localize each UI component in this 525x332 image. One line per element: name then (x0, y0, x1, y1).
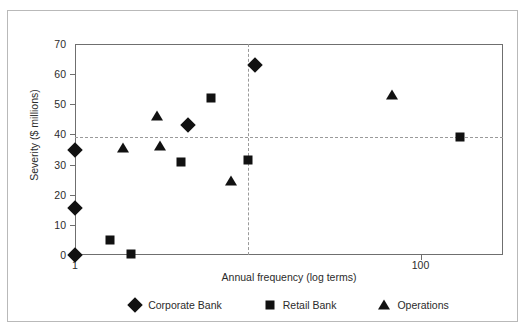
data-point-triangle (151, 111, 163, 121)
y-axis-tick-label: 70 (38, 38, 66, 50)
chart-legend: Corporate BankRetail BankOperations (75, 299, 503, 311)
y-axis-tick-label: 10 (38, 219, 66, 231)
y-axis-tick-label: 20 (38, 189, 66, 201)
y-axis-tick-label: 40 (38, 128, 66, 140)
y-axis-tick-mark (70, 225, 75, 226)
x-axis-tick-mark (421, 255, 422, 260)
y-axis-tick-label: 0 (38, 249, 66, 261)
data-point-triangle (154, 141, 166, 151)
legend-item-triangle: Operations (378, 299, 448, 311)
y-axis-tick-mark (70, 134, 75, 135)
data-point-square (106, 235, 115, 244)
y-axis-tick-mark (70, 104, 75, 105)
data-point-triangle (117, 142, 129, 152)
legend-item-diamond: Corporate Bank (129, 299, 222, 311)
y-axis-tick-mark (70, 74, 75, 75)
y-axis-tick-mark (70, 195, 75, 196)
data-point-square (243, 156, 252, 165)
data-point-square (176, 157, 185, 166)
legend-marker-triangle (378, 300, 390, 310)
x-axis-tick-label: 100 (412, 259, 430, 271)
data-point-square (456, 133, 465, 142)
y-axis-tick-label: 60 (38, 68, 66, 80)
data-point-square (126, 250, 135, 259)
legend-marker-diamond (127, 297, 143, 313)
legend-symbol-triangle (378, 299, 390, 311)
legend-label: Corporate Bank (148, 299, 222, 311)
data-point-triangle (386, 90, 398, 100)
y-axis-tick-label: 30 (38, 159, 66, 171)
data-point-square (206, 94, 215, 103)
data-point-triangle (225, 176, 237, 186)
y-axis-tick-mark (70, 165, 75, 166)
x-axis-title: Annual frequency (log terms) (75, 271, 503, 283)
y-axis-tick-label: 50 (38, 98, 66, 110)
plot-area (75, 44, 503, 255)
legend-label: Operations (397, 299, 448, 311)
legend-symbol-square (264, 299, 276, 311)
chart-frame: 0102030405060701100Severity ($ millions)… (7, 10, 518, 322)
legend-symbol-diamond (129, 299, 141, 311)
legend-label: Retail Bank (283, 299, 337, 311)
vertical-reference-line (248, 44, 249, 255)
scatter-chart: 0102030405060701100Severity ($ millions)… (8, 11, 525, 332)
y-axis-title: Severity ($ millions) (28, 65, 40, 205)
horizontal-reference-line (75, 137, 503, 138)
legend-item-square: Retail Bank (264, 299, 337, 311)
legend-marker-square (265, 301, 274, 310)
